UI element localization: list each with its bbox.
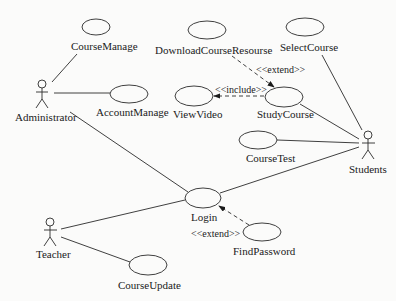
use-case-study-course [265,87,303,107]
use-case-select-course [286,18,324,36]
assoc-teacher-courseupdate [61,237,130,262]
actor-teacher-icon [44,218,57,246]
stereotype-extend-download: <<extend>> [256,64,305,76]
assoc-admin-login [70,112,188,192]
use-case-view-video [175,86,213,106]
use-case-label-login: Login [191,211,217,223]
use-case-label-select-course: SelectCourse [280,41,338,53]
stereotype-include-view: <<include>> [215,84,267,96]
actor-students-icon [362,131,375,159]
use-case-label-course-test: CourseTest [246,152,295,164]
stereotype-extend-find: <<extend>> [191,228,240,240]
use-case-course-manage [82,19,110,35]
use-case-course-update [129,255,167,275]
assoc-students-selectcourse [322,55,362,130]
use-case-login [185,188,221,208]
use-case-diagram: CourseManage AccountManage DownloadCours… [0,0,396,301]
actor-administrator-icon [36,80,48,108]
actor-label-teacher: Teacher [36,248,71,260]
actor-label-students: Students [349,163,387,175]
use-case-label-account-manage: AccountManage [96,106,169,118]
extend-findpassword-login [219,206,249,225]
assoc-teacher-login [61,200,185,229]
use-case-label-course-update: CourseUpdate [118,279,181,291]
assoc-students-coursetest [277,140,359,143]
use-case-label-view-video: ViewVideo [173,108,222,120]
use-case-label-study-course: StudyCourse [257,108,314,120]
use-case-label-find-password: FindPassword [233,245,295,257]
use-case-find-password [243,223,281,241]
use-case-course-test [239,131,277,149]
actor-label-administrator: Administrator [15,111,77,123]
assoc-admin-coursemanage [52,54,77,82]
use-case-label-download-course-resource: DownloadCourseResourse [155,44,272,56]
use-case-download-course-resource [188,21,226,39]
use-case-account-manage [110,85,148,103]
use-case-label-course-manage: CourseManage [71,40,138,52]
